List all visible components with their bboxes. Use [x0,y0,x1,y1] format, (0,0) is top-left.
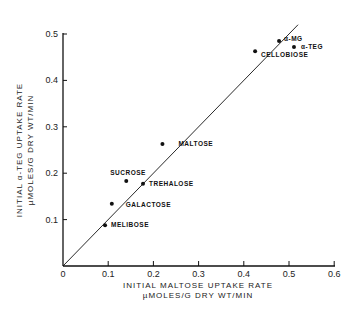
y-axis-title: INITIAL α-TEG UPTAKE RATE [15,83,24,217]
point-label: CELLOBIOSE [261,51,308,58]
data-point [124,179,128,183]
y-tick-label: 0.1 [45,215,58,225]
y-tick-label: 0.3 [45,122,58,132]
x-tick-label: 0.2 [147,269,160,279]
data-point [292,45,296,49]
x-tick-label: 0.3 [192,269,205,279]
x-tick-label: 0.6 [328,269,341,279]
data-point [103,223,107,227]
data-point [277,39,281,43]
y-axis-units: µMOLES/G DRY WT/MIN [26,95,35,205]
data-point [110,202,114,206]
x-tick-label: 0.5 [283,269,296,279]
data-point [141,182,145,186]
point-label: SUCROSE [110,169,146,176]
x-ticks: 00.10.20.30.40.50.6 [60,261,340,279]
x-axis-units: µMOLES/G DRY WT/MIN [143,291,253,300]
point-label: MELIBOSE [111,221,149,228]
point-label: TREHALOSE [149,180,194,187]
point-label: α-TEG [301,43,323,50]
y-tick-label: 0.2 [45,168,58,178]
y-ticks: 0.10.20.30.40.5 [45,29,67,225]
point-label: GALACTOSE [126,201,171,208]
point-label: MALTOSE [178,140,213,147]
scatter-chart: 00.10.20.30.40.50.6 0.10.20.30.40.5 MELI… [0,0,355,315]
x-tick-label: 0.1 [102,269,115,279]
data-points: MELIBOSEGALACTOSESUCROSETREHALOSEMALTOSE… [103,35,323,228]
data-point [253,49,257,53]
point-label: α-MG [284,35,303,42]
y-tick-label: 0.4 [45,75,58,85]
y-tick-label: 0.5 [45,29,58,39]
data-point [160,142,164,146]
x-tick-label: 0.4 [238,269,251,279]
x-tick-label: 0 [60,269,65,279]
x-axis-title: INITIAL MALTOSE UPTAKE RATE [123,281,273,290]
